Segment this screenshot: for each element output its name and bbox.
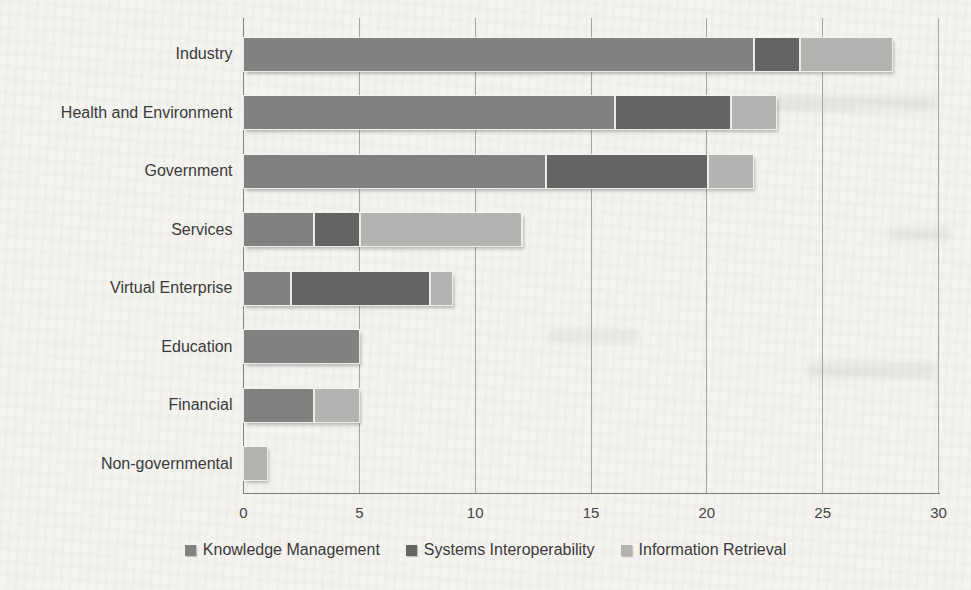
chart-legend: Knowledge ManagementSystems Interoperabi…: [0, 541, 971, 559]
x-tick-label: 25: [803, 504, 843, 521]
bar-industry: [244, 38, 893, 71]
segment-knowledge-management: [244, 213, 314, 246]
bar-education: [244, 330, 360, 363]
x-tick-label: 15: [571, 504, 611, 521]
x-tick-label: 0: [224, 504, 264, 521]
category-label-education: Education: [161, 337, 232, 357]
gridline-5: [359, 18, 360, 493]
gridline-10: [475, 18, 476, 493]
x-tick-label: 20: [687, 504, 727, 521]
x-tick-label: 30: [919, 504, 959, 521]
bar-non-governmental: [244, 447, 267, 480]
legend-label: Information Retrieval: [639, 541, 787, 559]
gridline-25: [822, 18, 823, 493]
segment-information-retrieval: [730, 96, 776, 129]
segment-systems-interoperability: [313, 213, 359, 246]
bar-services: [244, 213, 522, 246]
segment-information-retrieval: [707, 155, 753, 188]
legend-item-systems-interoperability: Systems Interoperability: [406, 541, 595, 559]
bar-government: [244, 155, 754, 188]
segment-knowledge-management: [244, 155, 545, 188]
gridline-15: [591, 18, 592, 493]
segment-information-retrieval: [799, 38, 892, 71]
category-label-services: Services: [171, 220, 232, 240]
legend-swatch-icon: [406, 545, 417, 556]
segment-knowledge-management: [244, 272, 290, 305]
segment-knowledge-management: [244, 96, 615, 129]
segment-knowledge-management: [244, 38, 754, 71]
segment-information-retrieval: [313, 389, 359, 422]
segment-systems-interoperability: [614, 96, 730, 129]
gridline-30: [938, 18, 939, 493]
legend-item-information-retrieval: Information Retrieval: [621, 541, 787, 559]
legend-label: Knowledge Management: [203, 541, 380, 559]
segment-systems-interoperability: [290, 272, 429, 305]
legend-item-knowledge-management: Knowledge Management: [185, 541, 380, 559]
category-label-industry: Industry: [176, 44, 233, 64]
segment-information-retrieval: [244, 447, 267, 480]
category-label-virtual-enterprise: Virtual Enterprise: [110, 278, 232, 298]
scanned-chart-page: 051015202530IndustryHealth and Environme…: [0, 0, 971, 590]
legend-swatch-icon: [621, 545, 632, 556]
segment-systems-interoperability: [753, 38, 799, 71]
x-tick-label: 5: [339, 504, 379, 521]
segment-systems-interoperability: [545, 155, 707, 188]
category-label-health-and-environment: Health and Environment: [61, 103, 233, 123]
x-tick-label: 10: [455, 504, 495, 521]
x-axis-line: [243, 493, 940, 494]
gridline-20: [706, 18, 707, 493]
segment-information-retrieval: [429, 272, 452, 305]
segment-knowledge-management: [244, 389, 314, 422]
segment-information-retrieval: [359, 213, 521, 246]
category-label-government: Government: [144, 161, 232, 181]
bar-health-and-environment: [244, 96, 777, 129]
plot-area: 051015202530IndustryHealth and Environme…: [0, 0, 971, 590]
category-label-non-governmental: Non-governmental: [101, 454, 233, 474]
legend-swatch-icon: [185, 545, 196, 556]
bar-virtual-enterprise: [244, 272, 453, 305]
legend-label: Systems Interoperability: [424, 541, 595, 559]
segment-knowledge-management: [244, 330, 360, 363]
y-axis-line: [243, 18, 244, 493]
category-label-financial: Financial: [168, 395, 232, 415]
bar-financial: [244, 389, 360, 422]
